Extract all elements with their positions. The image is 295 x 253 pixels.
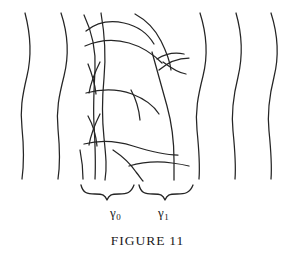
label-gamma-1-subscript: 1	[164, 212, 169, 222]
right-outer-curves	[196, 13, 277, 179]
braid-long-curve-3	[152, 52, 174, 180]
figure-container: γ0 γ1 FIGURE 11	[0, 0, 295, 253]
braid-arc-15	[129, 162, 189, 166]
figure-drawing	[0, 0, 295, 253]
braid-arc-14	[113, 150, 143, 181]
braid-arc-5	[159, 58, 189, 70]
braid-arc-9	[86, 90, 159, 114]
middle-long-curves	[84, 13, 174, 180]
middle-arc-curves	[80, 14, 189, 181]
figure-caption-number: 11	[169, 233, 184, 248]
braid-arc-3	[85, 41, 162, 63]
braid-arc-4	[157, 53, 184, 59]
label-gamma-1-symbol: γ	[158, 205, 164, 220]
brace-gamma0	[81, 185, 134, 200]
braid-arc-6	[163, 62, 186, 74]
figure-caption-word: FIGURE	[111, 233, 166, 248]
brace-gamma1	[139, 185, 193, 200]
figure-caption: FIGURE 11	[0, 233, 295, 249]
braid-arc-16	[80, 150, 83, 179]
label-gamma-0-subscript: 0	[116, 212, 121, 222]
label-gamma-1: γ1	[158, 206, 169, 222]
underbrace-group	[81, 185, 193, 200]
outer-curve-left-2	[57, 13, 67, 179]
outer-curve-right-1	[196, 13, 206, 179]
outer-curve-left-1	[21, 13, 30, 179]
outer-curve-right-2	[232, 13, 241, 179]
label-gamma-0-symbol: γ	[110, 205, 116, 220]
braid-long-curve-1	[84, 15, 95, 179]
left-outer-curves	[21, 13, 67, 179]
braid-arc-13	[84, 142, 178, 155]
braid-long-curve-2	[101, 13, 106, 180]
label-gamma-0: γ0	[110, 206, 121, 222]
outer-curve-right-3	[268, 13, 277, 179]
